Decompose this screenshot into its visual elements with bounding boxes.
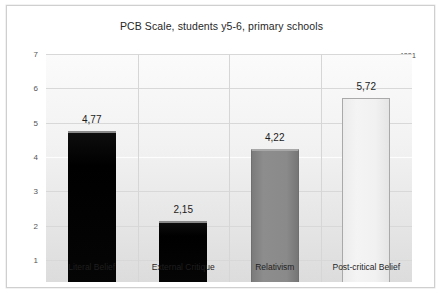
x-axis-category-labels: Literal BeliefExternal CritiqueRelativis… [46,260,412,282]
y-axis-tick-4: 4 [34,153,38,162]
y-axis: 7654321 [7,54,46,282]
y-axis-tick-3: 3 [34,187,38,196]
gridline-x-2 [229,54,230,282]
bar-post-critical-belief[interactable] [342,98,390,282]
gridline-x-1 [138,54,139,282]
gridline-x-3 [321,54,322,282]
x-axis-label-external-critique: External Critique [152,262,215,272]
x-axis-label-post-critical-belief: Post-critical Belief [332,262,400,272]
plot-area: 4,772,154,225,72 [46,54,412,282]
y-axis-tick-2: 2 [34,221,38,230]
x-axis-label-relativism: Relativism [255,262,294,272]
y-axis-tick-5: 5 [34,118,38,127]
chart-title: PCB Scale, students y5-6, primary school… [7,20,436,32]
bar-value-label-3: 5,72 [357,81,376,92]
y-axis-tick-6: 6 [34,84,38,93]
y-axis-tick-7: 7 [34,50,38,59]
x-axis-label-literal-belief: Literal Belief [68,262,115,272]
y-axis-tick-1: 1 [34,256,38,265]
chart-frame: PCB Scale, students y5-6, primary school… [6,5,435,288]
bar-value-label-0: 4,77 [82,114,101,125]
bar-value-label-1: 2,15 [174,204,193,215]
bar-value-label-2: 4,22 [265,132,284,143]
